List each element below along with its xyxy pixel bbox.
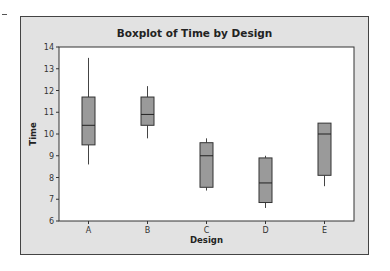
plot-area <box>59 47 354 221</box>
box-D <box>259 158 272 203</box>
x-tick-label: A <box>86 226 92 235</box>
y-tick-label: 6 <box>49 217 54 226</box>
x-tick-label: B <box>145 226 151 235</box>
y-tick-label: 11 <box>44 108 54 117</box>
x-axis-label: Design <box>190 235 223 245</box>
box-A <box>82 97 95 145</box>
x-tick-label: E <box>322 226 327 235</box>
y-tick-label: 8 <box>49 174 54 183</box>
x-tick-label: C <box>204 226 210 235</box>
box-C <box>200 143 213 188</box>
y-tick-label: 13 <box>44 65 54 74</box>
box-E <box>318 123 331 175</box>
y-tick-label: 12 <box>44 87 54 96</box>
y-tick-label: 9 <box>49 152 54 161</box>
y-tick-label: 10 <box>44 130 54 139</box>
x-tick-label: D <box>262 226 268 235</box>
y-tick-label: 7 <box>49 195 54 204</box>
box-B <box>141 97 154 125</box>
y-tick-label: 14 <box>44 43 54 52</box>
y-axis-label: Time <box>28 122 38 146</box>
boxplot-chart: 67891011121314ABCDEDesignTime <box>0 0 390 271</box>
